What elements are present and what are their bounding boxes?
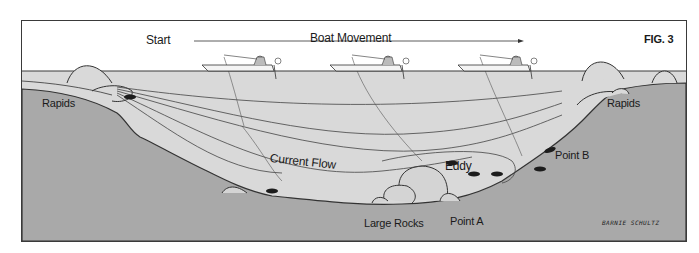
large-rocks-label: Large Rocks [364, 217, 424, 229]
artist-signature: BARNIE SCHULTZ [602, 219, 660, 226]
rapids-left-label: Rapids [42, 97, 75, 109]
figure-label: FIG. 3 [644, 33, 673, 45]
start-label: Start [146, 33, 170, 47]
river-cross-section [22, 21, 686, 241]
rapids-right-label: Rapids [607, 97, 640, 109]
point-b-label: Point B [555, 149, 589, 161]
point-a-label: Point A [450, 215, 483, 227]
boat-movement-label: Boat Movement [310, 31, 391, 45]
figure-frame: Start Boat Movement FIG. 3 Rapids Rapids… [21, 20, 687, 242]
eddy-label: Eddy [445, 159, 472, 173]
